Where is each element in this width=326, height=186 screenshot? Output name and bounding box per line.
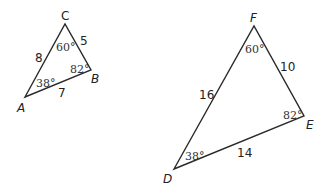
angle-label-d: 38° [185,150,205,163]
vertex-label-f: F [250,11,258,25]
vertex-label-a: A [16,101,25,115]
side-label-ac: 8 [35,51,43,65]
side-label-df: 16 [199,88,214,102]
triangle-abc: A B C 8 5 7 60° 82° 38° [16,9,99,115]
vertex-label-c: C [61,9,69,23]
triangle-def: D E F 16 10 14 60° 82° 38° [163,11,314,186]
angle-label-e: 82° [283,109,303,122]
side-label-ab: 7 [58,86,66,100]
side-label-de: 14 [237,146,252,160]
similar-triangles-figure: A B C 8 5 7 60° 82° 38° D E F 16 10 14 6… [0,0,326,186]
vertex-label-e: E [306,118,314,132]
vertex-label-b: B [91,72,99,86]
angle-label-a: 38° [36,77,56,90]
vertex-label-d: D [163,172,172,186]
side-label-fe: 10 [280,60,295,74]
angle-label-f: 60° [245,43,265,56]
angle-label-b: 82° [70,63,90,76]
angle-label-c: 60° [56,41,76,54]
side-label-cb: 5 [80,34,88,48]
